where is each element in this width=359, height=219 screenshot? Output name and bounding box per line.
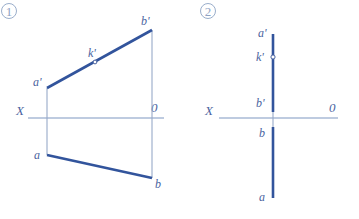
- panel-1-label-b: b: [155, 177, 161, 191]
- panel-1-label-b-prime: b': [141, 14, 150, 28]
- panel-2-point-marker-k-prime: [271, 55, 275, 59]
- panel-2-number-badge: 2: [201, 4, 216, 20]
- panel-1-label-k-prime: k': [88, 46, 96, 60]
- panel-1-number-badge: 1: [2, 4, 17, 20]
- panel-2: 2 X 0 a' k' b' b a: [201, 4, 339, 205]
- panel-2-label-k-prime: k': [256, 50, 264, 64]
- panel-2-number-label: 2: [205, 4, 212, 19]
- panel-2-label-a-prime: a': [258, 26, 267, 40]
- panel-2-axis-label-o: 0: [329, 100, 336, 115]
- panel-1-label-a: a: [34, 148, 40, 162]
- panel-1: 1 X 0 a' k' b' a b: [2, 4, 165, 192]
- panel-2-label-b: b: [259, 126, 265, 140]
- panel-1-label-a-prime: a': [33, 75, 42, 89]
- panel-1-number-label: 1: [6, 4, 13, 19]
- panel-1-segment-a-prime-b-prime: [47, 30, 152, 88]
- panel-1-point-marker-k-prime: [93, 60, 97, 64]
- panel-1-segment-a-b: [47, 155, 152, 178]
- panel-2-label-a: a: [259, 190, 265, 204]
- panel-1-axis-label-x: X: [15, 103, 25, 118]
- panel-2-label-b-prime: b': [256, 96, 265, 110]
- panel-2-axis-label-x: X: [204, 103, 214, 118]
- figure-canvas: 1 X 0 a' k' b' a b: [0, 0, 359, 219]
- geometry-figure: 1 X 0 a' k' b' a b: [0, 0, 359, 219]
